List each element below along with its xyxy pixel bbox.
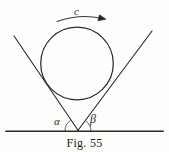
left-tangent-line [14,36,79,131]
figure-drawing [0,0,169,152]
curved-motion-arrow [57,15,106,22]
circle [41,27,114,100]
figure-caption: Fig. 55 [0,136,169,151]
arrow-head [98,15,106,21]
right-tangent-line [78,31,153,131]
velocity-label-c: c [74,6,79,17]
angle-label-alpha: α [54,116,60,127]
figure-container: c α β Fig. 55 [0,0,169,152]
angle-label-beta: β [90,113,96,125]
arrow-shaft [57,16,101,21]
angle-arc-alpha [65,120,71,131]
